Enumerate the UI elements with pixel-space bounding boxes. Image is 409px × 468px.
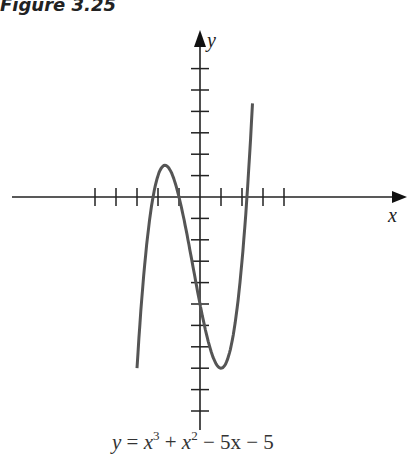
x-axis-arrow-icon	[392, 191, 407, 203]
function-curve	[137, 103, 253, 368]
x-axis-label: x	[387, 204, 397, 226]
y-axis-arrow-icon	[194, 30, 206, 47]
y-axis-label: y	[205, 29, 216, 52]
equation-caption: y = x3 + x2 − 5x − 5	[112, 428, 274, 455]
cubic-graph: y x	[0, 0, 409, 468]
